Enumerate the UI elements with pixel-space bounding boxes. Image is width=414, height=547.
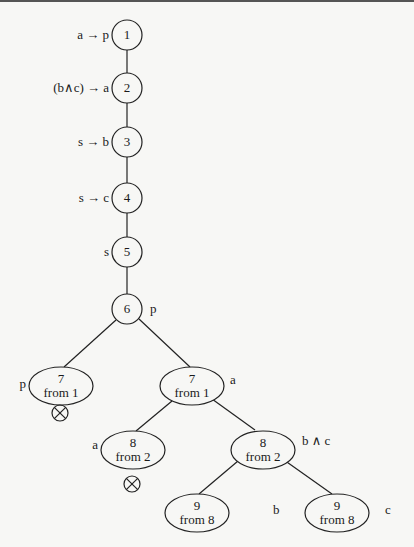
closed-branch-icon	[124, 476, 140, 492]
node-source: from 2	[115, 450, 150, 464]
node-7b: 7 from 1	[174, 372, 209, 400]
node-8b: 8 from 2	[245, 436, 280, 464]
node-number: 7	[43, 372, 78, 386]
node-5-number: 5	[124, 245, 131, 259]
closed-branch-icon	[52, 405, 68, 421]
formula-label-2: (b∧c) → a	[53, 81, 109, 95]
formula-label-9a: b	[273, 503, 280, 517]
node-1-number: 1	[124, 28, 131, 42]
node-number: 8	[245, 436, 280, 450]
node-7a: 7 from 1	[43, 372, 78, 400]
node-4-number: 4	[124, 191, 131, 205]
formula-label-9b: c	[385, 503, 391, 517]
formula-label-4: s → c	[79, 191, 109, 205]
node-number: 9	[179, 499, 214, 513]
formula-label-1: a → p	[77, 28, 109, 42]
formula-label-3: s → b	[78, 135, 109, 149]
node-source: from 1	[43, 386, 78, 400]
formula-label-8b: b ∧ c	[302, 434, 330, 448]
node-source: from 1	[174, 386, 209, 400]
node-number: 7	[174, 372, 209, 386]
formula-label-8a: a	[92, 438, 98, 452]
node-3-number: 3	[124, 135, 131, 149]
node-6-number: 6	[124, 302, 131, 316]
formula-label-7a: p	[20, 377, 27, 391]
node-9a: 9 from 8	[179, 499, 214, 527]
edge-7b-8a	[136, 401, 172, 431]
formula-label-7b: a	[230, 373, 236, 387]
formula-label-6: p	[150, 302, 157, 316]
edge-6-7b	[139, 319, 190, 367]
node-source: from 8	[179, 513, 214, 527]
node-number: 8	[115, 436, 150, 450]
edge-6-7a	[64, 320, 116, 367]
edge-8b-9a	[199, 461, 238, 494]
node-source: from 2	[245, 450, 280, 464]
node-9b: 9 from 8	[319, 499, 354, 527]
node-2-number: 2	[124, 81, 131, 95]
node-number: 9	[319, 499, 354, 513]
node-8a: 8 from 2	[115, 436, 150, 464]
node-source: from 8	[319, 513, 354, 527]
edge-8b-9b	[284, 460, 332, 494]
edge-7b-8b	[212, 399, 255, 430]
formula-label-5: s	[104, 245, 109, 259]
